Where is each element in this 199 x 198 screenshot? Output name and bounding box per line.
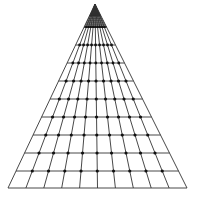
intersection-dot <box>117 62 120 65</box>
intersection-dot <box>94 44 97 47</box>
intersection-dot <box>128 115 131 118</box>
converging-line <box>95 4 187 188</box>
intersection-dot <box>133 133 136 136</box>
intersection-dot <box>139 151 142 154</box>
intersection-dot <box>86 44 89 47</box>
intersection-dot <box>64 79 67 82</box>
intersection-dot <box>92 26 94 28</box>
intersection-dot <box>73 115 76 118</box>
intersection-dot <box>44 133 47 136</box>
intersection-dot <box>81 151 84 154</box>
intersection-dot <box>139 115 142 118</box>
intersection-dot <box>47 169 50 172</box>
intersection-dot <box>98 44 101 47</box>
intersection-dot <box>37 151 40 154</box>
intersection-dot <box>79 169 82 172</box>
converging-line <box>95 4 133 188</box>
intersection-dot <box>103 26 105 28</box>
intersection-dot <box>78 44 81 47</box>
intersection-dot <box>51 115 54 118</box>
intersection-dot <box>146 133 149 136</box>
intersection-dot <box>110 44 113 47</box>
intersection-dot <box>90 26 92 28</box>
intersection-dot <box>95 115 98 118</box>
intersection-dot <box>102 79 105 82</box>
intersection-dot <box>52 151 55 154</box>
intersection-dot <box>62 115 65 118</box>
intersection-dot <box>122 97 125 100</box>
converging-line <box>95 4 151 188</box>
intersection-dot <box>124 79 127 82</box>
intersection-dot <box>96 169 99 172</box>
intersection-dot <box>85 26 87 28</box>
intersection-dot <box>57 133 60 136</box>
intersection-dot <box>153 151 156 154</box>
converging-line <box>95 4 115 188</box>
intersection-dot <box>76 97 79 100</box>
intersection-dot <box>67 97 70 100</box>
intersection-dot <box>117 79 120 82</box>
intersection-dot <box>100 62 103 65</box>
intersection-dot <box>85 97 88 100</box>
intersection-dot <box>79 79 82 82</box>
perspective-pyramid-diagram <box>0 0 199 198</box>
intersection-dot <box>87 79 90 82</box>
intersection-dot <box>58 97 61 100</box>
intersection-dot <box>144 169 147 172</box>
intersection-dot <box>128 169 131 172</box>
intersection-dot <box>101 26 103 28</box>
intersection-dot <box>96 26 98 28</box>
intersection-dot <box>99 26 101 28</box>
intersection-dot <box>88 26 90 28</box>
intersection-dot <box>66 151 69 154</box>
intersection-dot <box>94 26 96 28</box>
intersection-dot <box>104 97 107 100</box>
converging-lines <box>8 4 187 188</box>
intersection-dot <box>161 169 164 172</box>
intersection-dot <box>94 79 97 82</box>
intersection-dot <box>124 151 127 154</box>
intersection-dot <box>112 169 115 172</box>
intersection-dot <box>117 115 120 118</box>
intersection-dot <box>77 62 80 65</box>
intersection-dot <box>72 79 75 82</box>
intersection-dot <box>89 62 92 65</box>
intersection-dot <box>95 133 98 136</box>
converging-line <box>95 4 98 188</box>
intersection-dot <box>84 115 87 118</box>
intersection-dot <box>132 97 135 100</box>
intersection-dot <box>82 44 85 47</box>
intersection-dot <box>121 133 124 136</box>
intersection-dot <box>63 169 66 172</box>
intersection-dot <box>102 44 105 47</box>
intersection-dot <box>109 79 112 82</box>
converging-line <box>62 4 95 188</box>
intersection-dot <box>95 97 98 100</box>
intersection-dot <box>31 169 34 172</box>
intersection-dot <box>95 151 98 154</box>
intersection-dot <box>94 62 97 65</box>
converging-line <box>26 4 95 188</box>
converging-line <box>95 4 169 188</box>
intersection-dot <box>112 62 115 65</box>
intersection-dot <box>113 97 116 100</box>
intersection-dot <box>108 133 111 136</box>
intersection-dot <box>71 62 74 65</box>
intersection-dot <box>106 115 109 118</box>
intersection-dot <box>106 62 109 65</box>
intersection-dot <box>90 44 93 47</box>
intersection-dot <box>83 62 86 65</box>
intersection-dot <box>82 133 85 136</box>
intersection-dot <box>110 151 113 154</box>
intersection-dot <box>106 44 109 47</box>
intersection-dot <box>70 133 73 136</box>
